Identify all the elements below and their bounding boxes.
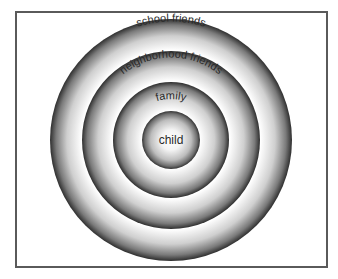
label-child: child	[159, 133, 184, 147]
concentric-circles-diagram: school friends neighborhood friends fami…	[0, 0, 338, 279]
